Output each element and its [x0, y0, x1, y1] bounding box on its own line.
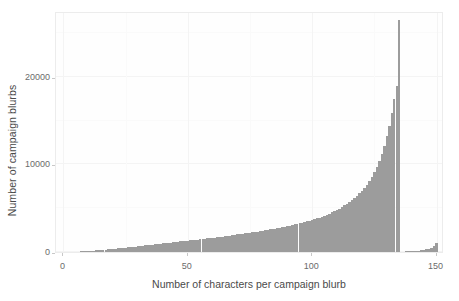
- y-tick-mark: [52, 78, 55, 79]
- y-tick-label: 0: [20, 247, 50, 257]
- x-tick-label: 100: [291, 261, 331, 271]
- x-axis-title: Number of characters per campaign blurb: [55, 276, 443, 292]
- plot-panel: [55, 12, 443, 253]
- x-tick-mark: [311, 253, 312, 256]
- y-tick-mark: [52, 253, 55, 254]
- y-tick-label: 20000: [20, 72, 50, 82]
- histogram-chart: Number of campaign blurbs 01000020000 05…: [0, 0, 459, 301]
- x-tick-mark: [187, 253, 188, 256]
- x-tick-label: 50: [167, 261, 207, 271]
- x-tick-mark: [62, 253, 63, 256]
- bar: [435, 243, 437, 252]
- y-tick-mark: [52, 165, 55, 166]
- x-tick-mark: [436, 253, 437, 256]
- y-tick-label: 10000: [20, 159, 50, 169]
- bars-layer: [56, 13, 442, 252]
- bar: [398, 20, 400, 252]
- x-tick-label: 150: [416, 261, 456, 271]
- y-axis-title: Number of campaign blurbs: [2, 0, 22, 301]
- x-tick-label: 0: [42, 261, 82, 271]
